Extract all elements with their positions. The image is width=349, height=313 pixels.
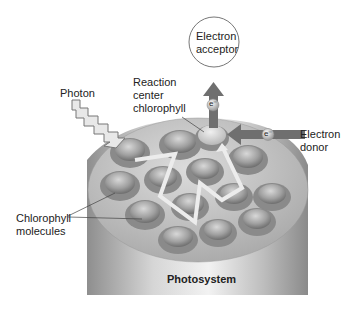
photosystem-label: Photosystem	[167, 273, 236, 286]
reaction-center-label: Reaction center chlorophyll	[133, 76, 186, 115]
electron-symbol-top: e⁻	[209, 99, 217, 108]
photon-arrow-icon	[72, 100, 125, 148]
chlorophyll-molecules-label: Chlorophyll molecules	[16, 212, 71, 238]
electron-donor-label: Electron donor	[300, 128, 340, 154]
electron-symbol-right: e⁻	[264, 129, 272, 138]
photosystem-diagram	[0, 0, 349, 313]
electron-acceptor-label: Electron acceptor	[196, 30, 234, 56]
photon-label: Photon	[60, 87, 95, 100]
